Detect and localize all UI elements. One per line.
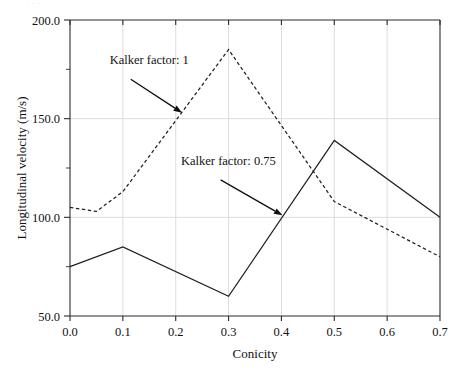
y-tick-label: 200.0 — [32, 14, 60, 28]
x-tick-labels: 0.00.10.20.30.40.50.60.7 — [62, 325, 448, 339]
y-axis-title: Longitudinal velocity (m/s) — [14, 97, 29, 240]
x-tick-label: 0.6 — [379, 325, 395, 339]
x-tick-label: 0.1 — [115, 325, 131, 339]
x-tick-label: 0.4 — [274, 325, 290, 339]
x-tick-label: 0.3 — [221, 325, 237, 339]
x-tick-label: 0.0 — [62, 325, 78, 339]
x-tick-label: 0.5 — [326, 325, 342, 339]
annotation-arrow-shaft — [131, 79, 175, 108]
data-series-layer — [70, 50, 440, 297]
annotation-layer: Kalker factor: 1Kalker factor: 0.75 — [110, 53, 283, 215]
annotation-arrow-head — [173, 106, 182, 113]
x-tick-label: 0.7 — [432, 325, 448, 339]
y-tick-label: 150.0 — [32, 112, 60, 126]
y-tick-labels: 50.0100.0150.0200.0 — [32, 14, 60, 324]
y-tick-label: 100.0 — [32, 211, 60, 225]
figure-container: · · · 0.00.10.20.30.40.50.60.7 50.0100.0… — [0, 0, 465, 370]
series-annotation-label: Kalker factor: 1 — [110, 53, 189, 67]
line-chart: 0.00.10.20.30.40.50.60.7 50.0100.0150.02… — [0, 0, 465, 370]
x-axis-title: Conicity — [233, 346, 278, 361]
x-tick-label: 0.2 — [168, 325, 184, 339]
y-tick-label: 50.0 — [38, 310, 60, 324]
series-annotation-label: Kalker factor: 0.75 — [181, 154, 276, 168]
